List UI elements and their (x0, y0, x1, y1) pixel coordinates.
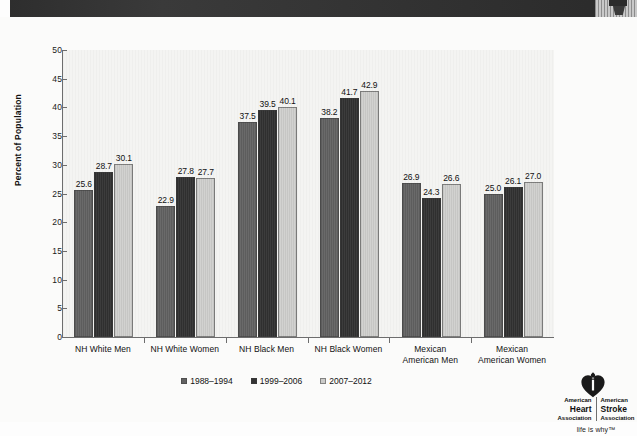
legend-swatch-icon (251, 378, 257, 384)
bar-value-label: 24.3 (423, 187, 439, 197)
x-axis-tick (471, 338, 472, 343)
aha-right-line3: Association (601, 414, 637, 423)
bar (94, 172, 113, 337)
legend-label: 2007–2012 (329, 376, 372, 386)
bar-value-label: 28.7 (96, 161, 112, 171)
y-axis-tick (62, 136, 67, 137)
bar (114, 164, 133, 337)
y-axis-tick-label: 15 (44, 246, 62, 256)
y-axis-tick (62, 337, 67, 338)
scanned-page: Percent of Population 051015202530354045… (0, 17, 637, 422)
x-axis-tick (226, 338, 227, 343)
bar-value-label: 39.5 (260, 99, 276, 109)
y-axis-tick (62, 280, 67, 281)
bar-value-label: 27.0 (525, 171, 541, 181)
scan-artifact-top-bar (10, 0, 619, 17)
y-axis-tick (62, 194, 67, 195)
legend-item: 2007–2012 (320, 376, 372, 386)
legend-swatch-icon (181, 378, 187, 384)
y-axis-tick (62, 50, 67, 51)
y-axis: 05101520253035404550 (40, 50, 62, 338)
aha-left-line3: Association (548, 414, 592, 423)
y-axis-tick-label: 0 (44, 332, 62, 342)
x-axis-tick (144, 338, 145, 343)
bar-value-label: 37.5 (240, 111, 256, 121)
bar-value-label: 27.8 (178, 166, 194, 176)
legend-label: 1988–1994 (190, 376, 233, 386)
bar-group: 38.241.742.9 (320, 50, 379, 337)
y-axis-tick (62, 222, 67, 223)
bar-group: 26.924.326.6 (402, 50, 461, 337)
bar (360, 91, 379, 337)
y-axis-tick (62, 251, 67, 252)
bar (278, 107, 297, 337)
x-axis-category-label: NH White Women (150, 344, 219, 355)
bar (484, 194, 503, 338)
bar (524, 182, 543, 337)
aha-left-line2: Heart (548, 405, 592, 414)
aha-logo: American Heart Association American Stro… (548, 372, 637, 436)
bar-value-label: 25.6 (76, 179, 92, 189)
bar (176, 177, 195, 337)
bar (320, 118, 339, 337)
bar (74, 190, 93, 337)
legend-item: 1999–2006 (251, 376, 303, 386)
y-axis-tick-label: 45 (44, 74, 62, 84)
bar-value-label: 38.2 (321, 107, 337, 117)
bar-group: 25.026.127.0 (484, 50, 543, 337)
x-axis-tick (389, 338, 390, 343)
aha-logo-wordmark: American Heart Association American Stro… (548, 396, 637, 423)
x-axis-tick (308, 338, 309, 343)
x-axis-category-label: NH White Men (75, 344, 131, 355)
bar (422, 198, 441, 337)
bar-value-label: 27.7 (198, 167, 214, 177)
bar-value-label: 41.7 (341, 87, 357, 97)
x-axis-category-label: Mexican American Men (403, 344, 458, 366)
bar (196, 178, 215, 337)
bar-group: 25.628.730.1 (74, 50, 133, 337)
y-axis-title: Percent of Population (13, 60, 23, 220)
y-axis-tick (62, 165, 67, 166)
legend-label: 1999–2006 (260, 376, 303, 386)
y-axis-tick-label: 35 (44, 131, 62, 141)
plot-area: 25.628.730.122.927.827.737.539.540.138.2… (62, 50, 554, 338)
bar-value-label: 25.0 (485, 183, 501, 193)
x-axis-category-label: NH Black Men (239, 344, 294, 355)
bar-value-label: 26.6 (443, 173, 459, 183)
y-axis-tick (62, 79, 67, 80)
y-axis-tick-label: 30 (44, 160, 62, 170)
bar-value-label: 42.9 (361, 80, 377, 90)
aha-right-line2: Stroke (601, 405, 637, 414)
y-axis-tick (62, 308, 67, 309)
chart-legend: 1988–19941999–20062007–2012 (0, 376, 553, 386)
bar (340, 98, 359, 337)
y-axis-tick (62, 107, 67, 108)
bar (402, 183, 421, 337)
legend-swatch-icon (320, 378, 326, 384)
legend-item: 1988–1994 (181, 376, 233, 386)
bar (442, 184, 461, 337)
y-axis-tick-label: 20 (44, 217, 62, 227)
y-axis-tick-label: 25 (44, 189, 62, 199)
x-axis-category-label: NH Black Women (315, 344, 383, 355)
heart-torch-icon (580, 372, 606, 398)
bar (258, 110, 277, 337)
bar (238, 122, 257, 337)
y-axis-tick-label: 40 (44, 102, 62, 112)
bar-value-label: 40.1 (280, 96, 296, 106)
y-axis-tick-label: 50 (44, 45, 62, 55)
bar-value-label: 26.9 (403, 172, 419, 182)
bar-group: 37.539.540.1 (238, 50, 297, 337)
bar-value-label: 22.9 (158, 195, 174, 205)
y-axis-tick-label: 5 (44, 303, 62, 313)
bar-group: 22.927.827.7 (156, 50, 215, 337)
y-axis-tick-label: 10 (44, 275, 62, 285)
aha-tagline: life is why™ (548, 426, 637, 433)
bar (504, 187, 523, 337)
bar-value-label: 26.1 (505, 176, 521, 186)
bar (156, 206, 175, 337)
bar-value-label: 30.1 (116, 153, 132, 163)
x-axis-category-label: Mexican American Women (478, 344, 546, 366)
